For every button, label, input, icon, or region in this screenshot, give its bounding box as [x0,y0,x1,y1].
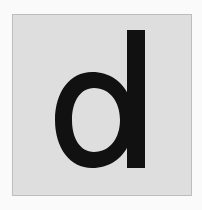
letter-stem [127,30,145,168]
letter-d-glyph [0,0,202,210]
letter-bowl [55,72,128,168]
